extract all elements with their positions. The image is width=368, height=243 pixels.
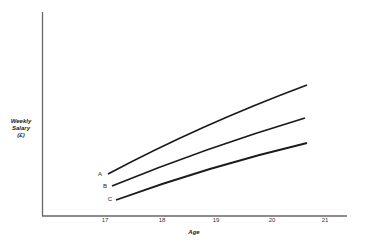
series-label-c: C — [106, 196, 114, 202]
x-tick-label: 21 — [317, 217, 333, 223]
series-line-b — [112, 118, 305, 186]
y-axis-label-line: Salary — [4, 125, 38, 132]
line-chart — [0, 0, 368, 243]
y-axis-label-line: (£) — [4, 132, 38, 139]
series-line-a — [108, 85, 307, 174]
y-axis-label: Weekly Salary (£) — [4, 118, 38, 139]
x-tick-label: 18 — [154, 217, 170, 223]
series-line-c — [116, 143, 307, 200]
series-label-a: A — [96, 171, 104, 177]
y-axis-label-line: Weekly — [4, 118, 38, 125]
x-tick-label: 19 — [208, 217, 224, 223]
x-tick-label: 17 — [97, 217, 113, 223]
series-label-b: B — [101, 183, 109, 189]
x-axis-label: Age — [184, 229, 204, 235]
x-tick-label: 20 — [264, 217, 280, 223]
